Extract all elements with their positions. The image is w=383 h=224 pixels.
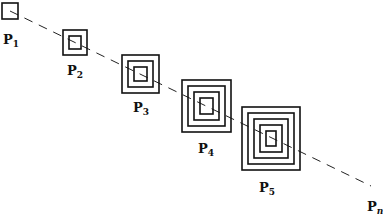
label-p1: P1 [3,33,19,49]
label-subscript: n [377,206,383,216]
label-p3: P3 [133,101,149,117]
label-text: P [133,100,143,115]
label-subscript: 1 [13,39,19,49]
p4-squares [182,80,231,132]
label-text: P [67,63,77,78]
label-p5: P5 [259,181,275,197]
label-text: P [367,199,377,214]
label-text: P [198,141,208,156]
label-text: P [3,32,13,47]
p5-squares [242,107,300,170]
label-p2: P2 [67,64,83,80]
label-p4: P4 [198,142,214,158]
label-subscript: 5 [269,187,275,197]
label-pn: Pn [367,200,383,216]
label-text: P [259,180,269,195]
label-subscript: 3 [143,107,149,117]
dashed-trajectory-line [10,11,371,186]
label-subscript: 4 [208,148,214,158]
label-subscript: 2 [77,70,83,80]
